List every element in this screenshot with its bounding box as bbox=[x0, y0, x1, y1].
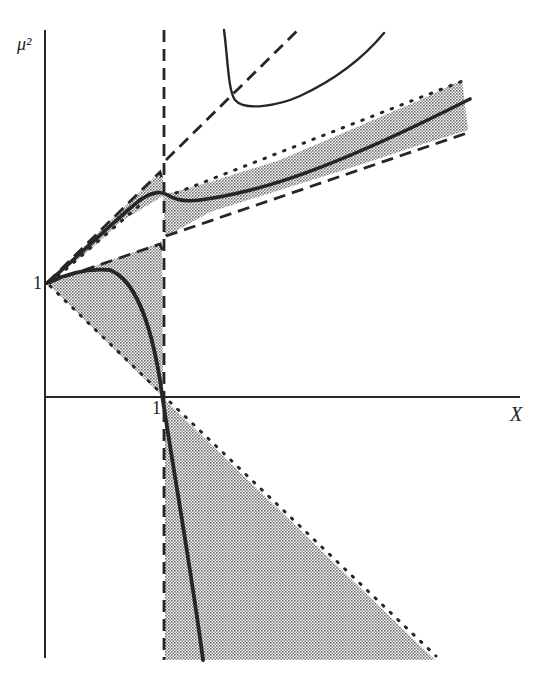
y-tick-label-1: 1 bbox=[33, 273, 42, 294]
top-solid-branch bbox=[224, 30, 384, 106]
shaded-regions bbox=[47, 80, 468, 660]
x-axis-label: X bbox=[510, 403, 522, 426]
x-tick-label-1: 1 bbox=[152, 398, 161, 419]
y-axis-label: μ² bbox=[17, 34, 31, 55]
diagram-canvas bbox=[0, 0, 560, 684]
upper-band-shading bbox=[163, 80, 468, 237]
lower-triangle-shading bbox=[165, 400, 435, 660]
dispersion-diagram: μ² X 1 1 bbox=[0, 0, 560, 684]
